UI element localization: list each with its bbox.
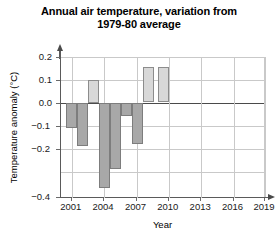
bar-2007 xyxy=(132,103,143,144)
vgridline-2019 xyxy=(265,57,266,198)
bar-2001 xyxy=(66,103,77,128)
xtick-label-2019: 2019 xyxy=(247,201,278,212)
chart-container: Annual air temperature, variation from 1… xyxy=(0,0,278,240)
ytick-0.1 xyxy=(56,80,60,81)
bar-2004 xyxy=(99,103,110,188)
ytick-label-0.1: 0.1 xyxy=(18,74,52,85)
chart-title-line-2: 1979-80 average xyxy=(0,18,278,31)
x-axis-arrow-icon xyxy=(268,194,275,200)
ytick-label-minus-0.4: −0.4 xyxy=(16,191,50,202)
ytick-minus-0.2 xyxy=(56,149,60,150)
xtick-label-2013: 2013 xyxy=(183,201,217,212)
ytick-0.2 xyxy=(56,57,60,58)
chart-title: Annual air temperature, variation from 1… xyxy=(0,5,278,31)
chart-title-line-1: Annual air temperature, variation from xyxy=(0,5,278,18)
ytick-label-minus-0.1: −0.1 xyxy=(16,120,50,131)
bar-2002 xyxy=(77,103,88,147)
vgridline-2016 xyxy=(234,57,235,198)
vgridline-2013 xyxy=(201,57,202,198)
ytick-label-0.2: 0.2 xyxy=(18,51,52,62)
ytick-minus-0.1 xyxy=(56,126,60,127)
ytick-0.0 xyxy=(56,103,60,104)
gridline-0.2 xyxy=(61,57,266,58)
ytick-label-0.0: 0.0 xyxy=(18,97,52,108)
xtick-label-2007: 2007 xyxy=(119,201,153,212)
bar-2006 xyxy=(121,103,132,117)
plot-area xyxy=(60,57,265,198)
y-axis-arrow-icon xyxy=(57,44,63,51)
gridline-minus-0.1 xyxy=(61,126,266,127)
ytick-label-minus-0.2: −0.2 xyxy=(16,143,50,154)
bar-2008 xyxy=(143,67,154,103)
gridline-minus-0.3 xyxy=(61,172,266,173)
gridline-minus-0.2 xyxy=(61,149,266,150)
y-axis-title: Temperature anomaly (°C) xyxy=(8,53,19,203)
xtick-label-2016: 2016 xyxy=(216,201,250,212)
ytick-minus-0.4 xyxy=(56,197,60,198)
vgridline-2010 xyxy=(169,57,170,198)
xtick-label-2001: 2001 xyxy=(54,201,88,212)
bar-2009 xyxy=(158,67,169,103)
xtick-label-2010: 2010 xyxy=(151,201,185,212)
bar-2005 xyxy=(110,103,121,170)
bar-2003 xyxy=(88,80,99,103)
xtick-label-2004: 2004 xyxy=(86,201,120,212)
x-axis-title: Year xyxy=(60,219,265,230)
zero-line xyxy=(61,103,266,104)
